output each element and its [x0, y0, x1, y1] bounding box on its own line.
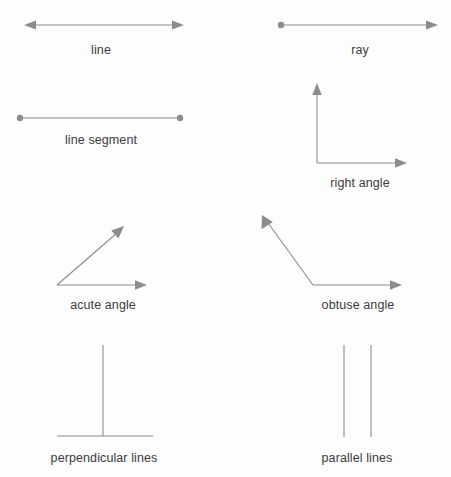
ray-arrowhead-right-icon — [426, 21, 438, 30]
label-parallel-lines: parallel lines — [322, 451, 393, 465]
figure-line — [24, 21, 184, 30]
obtuse-angle-diagonal-arm — [268, 223, 313, 285]
label-ray: ray — [351, 43, 369, 57]
figure-line-segment — [17, 115, 183, 121]
figure-parallel-lines — [344, 345, 371, 437]
acute-angle-diagonal-arm — [57, 233, 117, 285]
ray-endpoint-dot-icon — [278, 22, 284, 28]
figure-perpendicular-lines — [57, 345, 153, 436]
label-perpendicular-lines: perpendicular lines — [51, 451, 158, 465]
line-arrowhead-left-icon — [24, 21, 36, 30]
right-angle-arrowhead-up-icon — [312, 83, 321, 95]
figure-right-angle — [312, 83, 407, 168]
obtuse-angle-arrowhead-right-icon — [390, 280, 402, 289]
label-acute-angle: acute angle — [70, 298, 136, 312]
label-obtuse-angle: obtuse angle — [322, 298, 395, 312]
label-line-segment: line segment — [65, 133, 137, 147]
label-line: line — [91, 43, 111, 57]
figure-ray — [278, 21, 438, 30]
geometry-reference-sheet: line ray line segment right angle acute … — [0, 0, 451, 477]
right-angle-arrowhead-right-icon — [395, 158, 407, 167]
figure-acute-angle — [57, 226, 147, 290]
acute-angle-arrowhead-right-icon — [135, 280, 147, 289]
figure-obtuse-angle — [262, 215, 403, 290]
line-segment-endpoint-dot-left-icon — [17, 115, 23, 121]
line-arrowhead-right-icon — [172, 21, 184, 30]
geometry-figures-canvas — [0, 0, 451, 477]
line-segment-endpoint-dot-right-icon — [177, 115, 183, 121]
label-right-angle: right angle — [330, 176, 389, 190]
